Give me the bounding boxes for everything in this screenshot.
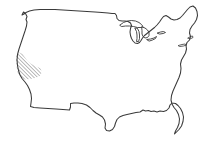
map-svg-canvas [0, 0, 211, 142]
us-outline-map-figure: Outline map of the contiguous United Sta… [0, 0, 211, 142]
